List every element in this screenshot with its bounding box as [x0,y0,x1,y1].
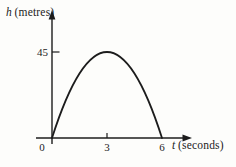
x-axis-unit: (seconds) [178,139,224,151]
y-tick-label-45: 45 [37,46,48,58]
y-axis-unit: (metres) [14,6,54,18]
height-curve [52,52,162,138]
projectile-height-graph: h (metres) t (seconds) 03645 [0,0,236,167]
x-tick-label-3: 3 [104,141,110,153]
x-tick-label-0: 0 [39,141,45,153]
x-axis-label: t (seconds) [172,139,224,151]
tick-marks [52,52,107,138]
x-axis-variable: t [172,139,175,151]
y-axis-label: h (metres) [6,6,54,18]
y-axis-variable: h [6,6,12,18]
x-tick-label-6: 6 [159,141,165,153]
